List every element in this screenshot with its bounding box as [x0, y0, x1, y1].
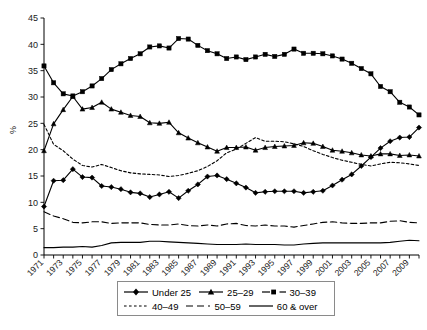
x-tick-label: 1977	[83, 257, 104, 278]
data-point	[359, 66, 363, 70]
x-tick-label: 1985	[159, 257, 180, 278]
legend-entry-40-49[interactable]: 40–49	[123, 301, 185, 312]
data-point	[100, 76, 104, 80]
legend-row-2: 40–49 50–59 60 & over	[123, 299, 329, 313]
legend-entry-50-59[interactable]: 50–59	[185, 301, 247, 312]
data-point	[186, 136, 191, 141]
x-tick-label: 1973	[44, 257, 65, 278]
legend-entry-25-29[interactable]: 25–29	[198, 287, 260, 298]
data-point	[138, 52, 142, 56]
x-tick-label: 1989	[198, 257, 219, 278]
x-tick-label: 2007	[371, 257, 392, 278]
y-tick-label: 25	[28, 119, 38, 129]
x-tick-label: 2003	[333, 257, 354, 278]
data-point	[177, 36, 181, 40]
legend-swatch-60-and-over	[248, 301, 274, 311]
legend-entry-30-39[interactable]: 30–39	[261, 287, 323, 298]
data-point	[128, 190, 133, 195]
data-point	[302, 51, 306, 55]
chart-container: 051015202530354045%197119731975197719791…	[0, 0, 427, 330]
data-point	[71, 94, 75, 98]
data-point	[330, 54, 334, 58]
data-point	[157, 44, 161, 48]
legend-swatch-50-59	[185, 301, 211, 311]
data-point	[138, 191, 143, 196]
data-point	[214, 173, 219, 178]
data-point	[330, 183, 335, 188]
data-point	[118, 187, 123, 192]
data-point	[311, 51, 315, 55]
data-point	[244, 58, 248, 62]
x-tick-label: 1997	[275, 257, 296, 278]
data-point	[301, 190, 306, 195]
data-point	[282, 52, 286, 56]
y-tick-label: 40	[28, 40, 38, 50]
x-tick-label: 1983	[140, 257, 161, 278]
legend-swatch-30-39	[261, 287, 287, 297]
series-50-59	[44, 212, 419, 227]
data-point	[51, 178, 56, 183]
x-tick-label: 2001	[313, 257, 334, 278]
data-point	[282, 189, 287, 194]
data-point	[339, 177, 344, 182]
data-point	[205, 49, 209, 53]
data-point	[224, 177, 229, 182]
data-point	[80, 90, 84, 94]
data-point	[253, 55, 257, 59]
data-point	[320, 188, 325, 193]
data-point	[186, 37, 190, 41]
data-point	[90, 84, 94, 88]
series-30-39	[42, 36, 421, 117]
data-point	[109, 184, 114, 189]
data-point	[52, 81, 56, 85]
data-point	[292, 47, 296, 51]
x-tick-label: 1999	[294, 257, 315, 278]
y-tick-label: 30	[28, 92, 38, 102]
series-line	[44, 240, 419, 247]
y-axis-title: %	[8, 126, 18, 134]
series-40-49	[44, 124, 419, 176]
y-tick-label: 35	[28, 66, 38, 76]
x-tick-label: 2009	[390, 257, 411, 278]
data-point	[128, 56, 132, 60]
legend-label-60-and-over: 60 & over	[277, 301, 318, 312]
legend-entry-60-and-over[interactable]: 60 & over	[248, 301, 325, 312]
data-point	[119, 62, 123, 66]
x-tick-label: 1995	[256, 257, 277, 278]
data-point	[215, 52, 219, 56]
legend-swatch-under-25	[123, 287, 149, 297]
y-tick-label: 5	[33, 224, 38, 234]
y-tick-label: 10	[28, 198, 38, 208]
series-25-29	[42, 94, 422, 158]
legend-entry-under-25[interactable]: Under 25	[123, 287, 198, 298]
data-point	[291, 189, 296, 194]
data-point	[263, 189, 268, 194]
y-tick-label: 45	[28, 13, 38, 23]
data-point	[407, 105, 411, 109]
data-point	[378, 84, 382, 88]
data-point	[148, 45, 152, 49]
x-tick-label: 1979	[102, 257, 123, 278]
x-tick-label: 2005	[352, 257, 373, 278]
data-point	[243, 185, 248, 190]
data-point	[350, 61, 354, 65]
legend-label-under-25: Under 25	[152, 287, 191, 298]
series-60-over	[44, 240, 419, 247]
x-tick-label: 1971	[25, 257, 46, 278]
series-line	[44, 212, 419, 227]
data-point	[263, 52, 267, 56]
data-point	[253, 190, 258, 195]
data-point	[340, 57, 344, 61]
legend-swatch-40-49	[123, 301, 149, 311]
data-point	[369, 72, 373, 76]
y-tick-label: 15	[28, 171, 38, 181]
data-point	[388, 90, 392, 94]
data-point	[109, 68, 113, 72]
x-tick-label: 1975	[63, 257, 84, 278]
data-point	[272, 189, 277, 194]
data-point	[167, 46, 171, 50]
data-point	[147, 194, 152, 199]
legend-label-40-49: 40–49	[152, 301, 178, 312]
data-point	[157, 192, 162, 197]
legend-swatch-25-29	[198, 287, 224, 297]
